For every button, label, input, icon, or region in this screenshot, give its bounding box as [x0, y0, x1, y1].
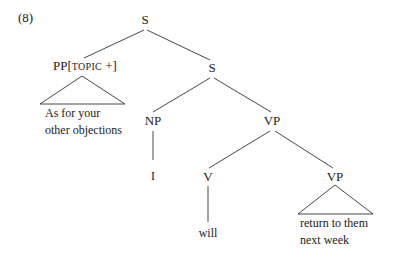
- branch-vp-vp: [275, 131, 333, 168]
- example-number: (8): [18, 11, 33, 25]
- node-v: V: [203, 170, 212, 184]
- node-s-root: S: [141, 13, 148, 27]
- node-s-inner: S: [208, 61, 215, 75]
- node-vp: VP: [264, 114, 281, 128]
- leaf-will: will: [199, 226, 218, 240]
- node-pp-topic: PP[TOPIC +]: [53, 59, 117, 74]
- node-np: NP: [145, 114, 162, 128]
- vp-triangle: [298, 185, 373, 214]
- pp-text-line1: As for your: [45, 106, 100, 120]
- pp-text-line2: other objections: [45, 123, 122, 137]
- pp-triangle: [40, 76, 125, 104]
- pp-feature: TOPIC: [72, 61, 102, 72]
- pp-feature-value: +]: [102, 58, 117, 73]
- vp-text-line1: return to them: [300, 216, 368, 230]
- branch-s-np: [153, 78, 210, 112]
- branch-s-pp: [84, 30, 144, 58]
- node-vp-lower: VP: [327, 170, 344, 184]
- leaf-i: I: [151, 169, 155, 183]
- branch-s-s: [147, 30, 210, 60]
- vp-text-line2: next week: [300, 233, 349, 247]
- branch-vp-v: [209, 131, 270, 168]
- branch-s-vp: [214, 78, 271, 112]
- pp-category: PP: [53, 58, 67, 73]
